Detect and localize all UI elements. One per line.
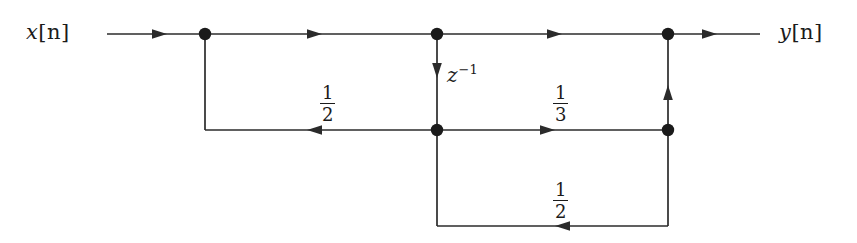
coefficient-feedforward-mid: 1 3 (553, 84, 568, 125)
output-signal-variable: y (779, 20, 791, 44)
arrowhead-riser-up (663, 85, 673, 100)
coefficient-feedback-lower-denominator: 2 (553, 202, 568, 221)
arrowhead-input (152, 29, 167, 39)
input-signal-index: [n] (38, 20, 69, 44)
output-signal-label: y[n] (779, 20, 823, 44)
coefficient-feedback-lower: 1 2 (553, 181, 568, 222)
coefficient-feedback-upper-numerator: 1 (320, 84, 335, 103)
arrowhead-gain-third (540, 125, 555, 135)
coefficient-feedback-upper-denominator: 2 (320, 105, 335, 124)
input-signal-label: x[n] (26, 20, 70, 44)
node-sum-2 (431, 28, 443, 40)
coefficient-feedforward-mid-numerator: 1 (553, 84, 568, 103)
flow-graph-canvas (0, 0, 857, 243)
node-sum-3 (662, 28, 674, 40)
coefficient-feedback-upper: 1 2 (320, 84, 335, 125)
coefficient-feedback-lower-numerator: 1 (553, 181, 568, 200)
input-signal-variable: x (26, 20, 38, 44)
arrowhead-feedback-half (307, 125, 322, 135)
delay-operator-base: z (447, 63, 458, 87)
arrowhead-output (702, 29, 717, 39)
arrowhead-feedback-half-lower (555, 221, 570, 231)
node-branch-2 (662, 124, 674, 136)
arrowhead-delay-down (432, 63, 442, 78)
delay-operator-label: z−1 (447, 62, 478, 87)
coefficient-feedforward-mid-denominator: 3 (553, 105, 568, 124)
signal-flow-graph-figure: x[n] y[n] z−1 1 2 1 3 1 2 (0, 0, 857, 243)
arrowhead-top-seg2 (547, 29, 562, 39)
arrowhead-top-seg1 (307, 29, 322, 39)
output-signal-index: [n] (791, 20, 822, 44)
node-sum-1 (199, 28, 211, 40)
node-branch-1 (431, 124, 443, 136)
delay-operator-exponent: −1 (459, 62, 478, 77)
